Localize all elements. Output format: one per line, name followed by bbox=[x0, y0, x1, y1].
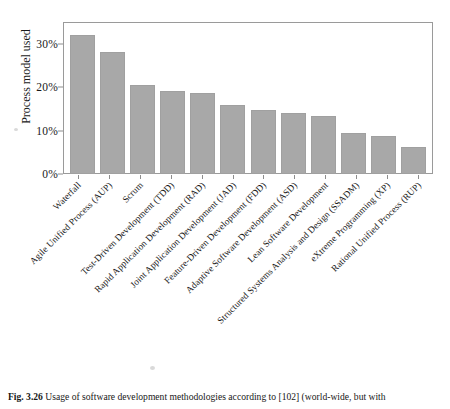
bar bbox=[190, 93, 215, 174]
plot-area bbox=[63, 22, 433, 174]
x-tick-label: Rapid Application Development (RAD) bbox=[92, 180, 207, 295]
figure-caption-label: Fig. 3.26 bbox=[8, 391, 43, 402]
bar-slot bbox=[338, 22, 368, 174]
bar bbox=[311, 116, 336, 174]
bar-slot bbox=[158, 22, 188, 174]
x-tick-mark bbox=[294, 175, 295, 179]
figure-container: Process model used 0%10%20%30% Waterfall… bbox=[0, 0, 450, 409]
x-tick-label: Scrum bbox=[121, 180, 146, 205]
x-tick-mark bbox=[263, 175, 264, 179]
y-axis: Process model used 0%10%20%30% bbox=[0, 22, 63, 175]
y-axis-title: Process model used bbox=[19, 2, 34, 152]
bar bbox=[281, 113, 306, 174]
y-tick-label: 0% bbox=[42, 168, 58, 180]
bar-slot bbox=[188, 22, 218, 174]
bar bbox=[220, 105, 245, 174]
bar bbox=[70, 35, 95, 174]
bar bbox=[251, 110, 276, 174]
x-tick-mark bbox=[171, 175, 172, 179]
bar-slot bbox=[97, 22, 127, 174]
bar bbox=[130, 85, 155, 174]
y-tick-label: 20% bbox=[36, 81, 58, 93]
x-tick-mark bbox=[356, 175, 357, 179]
figure-caption: Fig. 3.26 Usage of software development … bbox=[8, 391, 444, 403]
bar-slot bbox=[67, 22, 97, 174]
bar bbox=[401, 147, 426, 174]
bar bbox=[100, 52, 125, 174]
x-tick-mark bbox=[140, 175, 141, 179]
scan-speck bbox=[150, 366, 155, 370]
y-tick-label: 10% bbox=[36, 125, 58, 137]
bar-series bbox=[63, 22, 433, 174]
bar-slot bbox=[218, 22, 248, 174]
x-tick-mark bbox=[387, 175, 388, 179]
bar bbox=[341, 133, 366, 174]
x-tick-mark bbox=[202, 175, 203, 179]
bar bbox=[371, 136, 396, 174]
bar-slot bbox=[308, 22, 338, 174]
bar-slot bbox=[399, 22, 429, 174]
x-tick-mark bbox=[325, 175, 326, 179]
x-tick-label: Adaptive Software Development (ASD) bbox=[184, 180, 299, 295]
bar bbox=[160, 91, 185, 174]
x-tick-mark bbox=[109, 175, 110, 179]
bar-slot bbox=[278, 22, 308, 174]
bar-slot bbox=[127, 22, 157, 174]
bar-slot bbox=[369, 22, 399, 174]
x-tick-mark bbox=[233, 175, 234, 179]
x-tick-mark bbox=[418, 175, 419, 179]
figure-caption-text: Usage of software development methodolog… bbox=[45, 391, 385, 402]
x-tick-mark bbox=[78, 175, 79, 179]
bar-slot bbox=[248, 22, 278, 174]
y-tick-label: 30% bbox=[36, 38, 58, 50]
